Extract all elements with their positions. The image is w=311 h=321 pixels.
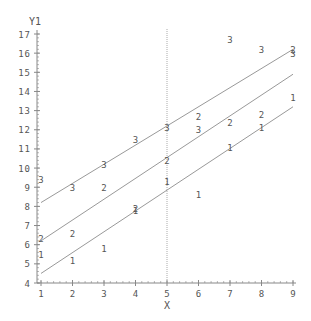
data-point-group-1: 1 [70, 256, 75, 266]
y-tick-label: 14 [18, 87, 31, 97]
data-point-group-2: 2 [101, 183, 106, 193]
data-point-group-3: 3 [101, 160, 106, 170]
y-tick-label: 17 [18, 30, 31, 40]
data-point-group-2: 2 [38, 234, 43, 244]
y-tick-label: 6 [25, 240, 31, 250]
data-point-group-2: 2 [227, 118, 232, 128]
x-tick-label: 9 [290, 289, 295, 299]
x-tick-label: 4 [133, 289, 138, 299]
data-point-group-1: 1 [227, 143, 232, 153]
x-tick-label: 2 [70, 289, 75, 299]
data-point-group-2: 2 [164, 156, 169, 166]
y-tick-label: 7 [25, 221, 31, 231]
data-point-group-1: 1 [38, 250, 43, 260]
data-point-group-2: 2 [196, 112, 201, 122]
data-point-group-2: 2 [133, 204, 138, 214]
x-tick-label: 6 [196, 289, 201, 299]
data-point-group-3: 3 [227, 35, 232, 45]
data-point-group-3: 3 [133, 135, 138, 145]
scatter-chart: 4567891011121314151617123456789 11111111… [0, 0, 311, 321]
data-point-group-1: 1 [196, 190, 201, 200]
x-tick-label: 1 [38, 289, 43, 299]
data-point-group-3: 3 [70, 183, 75, 193]
data-point-group-1: 1 [101, 244, 106, 254]
data-point-group-2: 2 [70, 229, 75, 239]
data-point-group-1: 1 [259, 123, 264, 133]
data-point-group-3: 3 [38, 175, 43, 185]
y-tick-label: 4 [25, 279, 31, 289]
y-tick-label: 9 [25, 183, 31, 193]
data-point-group-1: 1 [164, 177, 169, 187]
x-tick-label: 7 [227, 289, 232, 299]
y-tick-label: 16 [18, 49, 31, 59]
data-point-group-3: 3 [164, 123, 169, 133]
data-point-group-3: 3 [196, 125, 201, 135]
y-tick-label: 11 [18, 144, 31, 154]
y-tick-label: 12 [18, 125, 31, 135]
y-tick-label: 15 [18, 68, 31, 78]
y-tick-label: 8 [25, 202, 31, 212]
y-axis-label: Y1 [29, 16, 41, 27]
data-point-group-1: 1 [290, 93, 295, 103]
y-tick-label: 13 [18, 106, 31, 116]
data-point-group-2: 2 [259, 110, 264, 120]
y-tick-label: 5 [25, 259, 31, 269]
x-tick-label: 5 [164, 289, 169, 299]
x-tick-label: 8 [259, 289, 264, 299]
data-point-group-3: 3 [290, 49, 295, 59]
y-tick-label: 10 [18, 164, 31, 174]
x-axis-label: X [164, 300, 170, 311]
data-point-group-3: 3 [259, 45, 264, 55]
x-tick-label: 3 [101, 289, 106, 299]
